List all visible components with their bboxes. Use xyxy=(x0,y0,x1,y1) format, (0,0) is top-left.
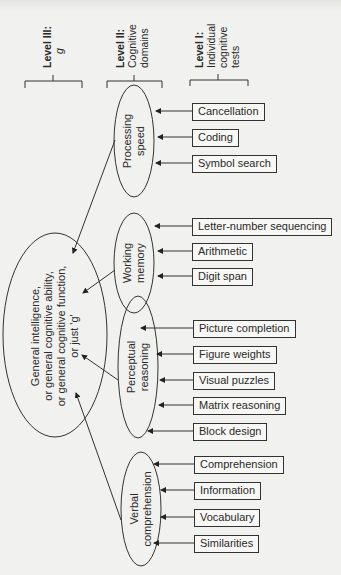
domain-label-line2: memory xyxy=(134,213,147,313)
test-information: Information xyxy=(194,482,261,500)
test-letter-number-sequencing: Letter-number sequencing xyxy=(192,218,332,236)
domain-perceptual-reasoning: Perceptual reasoning xyxy=(125,317,151,417)
domain-label-line1: Working xyxy=(121,213,134,313)
header-level1-title: Level I: xyxy=(193,32,205,68)
header-level2-line2: domains xyxy=(138,24,150,68)
domain-verbal-comprehension: Verbal comprehension xyxy=(128,459,154,559)
domain-working-memory: Working memory xyxy=(121,213,147,313)
header-level1-line1: Individual xyxy=(205,24,217,68)
test-visual-puzzles: Visual puzzles xyxy=(193,372,275,390)
header-level3: Level III: g xyxy=(41,26,65,68)
domain-label-line1: Processing xyxy=(121,91,134,191)
g-node-label: General intelligence, or general cogniti… xyxy=(29,246,81,426)
test-matrix-reasoning: Matrix reasoning xyxy=(193,397,286,415)
header-level1-line3: tests xyxy=(229,24,241,68)
test-comprehension: Comprehension xyxy=(194,456,284,474)
domain-label-line1: Perceptual xyxy=(125,317,138,417)
brace-level2 xyxy=(107,75,162,88)
test-picture-completion: Picture completion xyxy=(193,320,296,338)
header-level1: Level I: Individual cognitive tests xyxy=(193,24,241,68)
g-line3: or general cognitive function, xyxy=(55,246,68,426)
domain-label-line2: reasoning xyxy=(138,317,151,417)
domain-label-line2: comprehension xyxy=(141,459,154,559)
brace-level3 xyxy=(25,75,82,88)
test-similarities: Similarities xyxy=(194,535,259,553)
header-level3-subtitle: g xyxy=(53,26,65,68)
header-level3-title: Level III: xyxy=(41,26,53,68)
test-vocabulary: Vocabulary xyxy=(194,509,260,527)
header-level2-line1: Cognitive xyxy=(126,24,138,68)
domain-label-line2: speed xyxy=(134,91,147,191)
test-coding: Coding xyxy=(192,129,239,147)
g-line2: or general cognitive ability, xyxy=(42,246,55,426)
test-digit-span: Digit span xyxy=(192,268,253,286)
domain-label-line1: Verbal xyxy=(128,459,141,559)
domain-processing-speed: Processing speed xyxy=(121,91,147,191)
test-symbol-search: Symbol search xyxy=(192,155,277,173)
g-line4: or just 'g' xyxy=(68,246,81,426)
test-block-design: Block design xyxy=(193,423,267,441)
g-line1: General intelligence, xyxy=(29,246,42,426)
test-arithmetic: Arithmetic xyxy=(192,243,253,261)
header-level1-line2: cognitive xyxy=(217,24,229,68)
test-figure-weights: Figure weights xyxy=(193,346,277,364)
header-level2-title: Level II: xyxy=(114,29,126,68)
brace-level1 xyxy=(190,74,248,86)
test-cancellation: Cancellation xyxy=(192,103,265,121)
header-level2: Level II: Cognitive domains xyxy=(114,24,150,68)
